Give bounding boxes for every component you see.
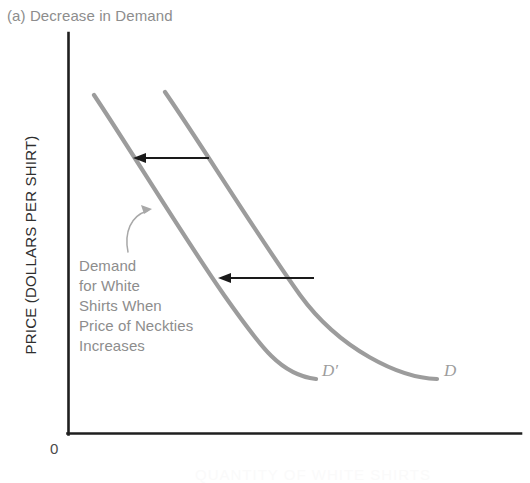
callout-line-4: Price of Neckties — [79, 316, 229, 336]
callout-leader-arrow — [127, 205, 152, 252]
callout-line-2: for White — [79, 276, 229, 296]
x-axis-label: QUANTITY OF WHITE SHIRTS — [195, 466, 431, 483]
shift-arrow-lower — [218, 273, 314, 283]
origin-label: 0 — [50, 440, 58, 457]
demand-callout-text: Demand for White Shirts When Price of Ne… — [79, 256, 229, 356]
callout-line-5: Increases — [79, 336, 229, 356]
curve-label-d-prime: D′ — [322, 361, 338, 381]
curve-label-d: D — [444, 361, 456, 381]
callout-line-1: Demand — [79, 256, 229, 276]
shift-arrow-upper — [133, 153, 209, 163]
callout-line-3: Shirts When — [79, 296, 229, 316]
